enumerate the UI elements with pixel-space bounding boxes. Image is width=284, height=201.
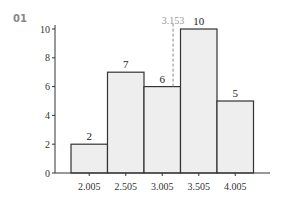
- x-tick-label: 4.005: [224, 181, 247, 192]
- bar-3.005: [144, 87, 181, 173]
- bar-value-label: 5: [233, 87, 239, 99]
- x-tick-label: 2.005: [78, 181, 101, 192]
- histogram-chart: 22.00572.50563.005103.50554.0053.1530246…: [0, 0, 284, 201]
- x-tick-label: 3.505: [188, 181, 211, 192]
- bar-3.505: [181, 29, 218, 173]
- y-tick-label: 10: [40, 24, 50, 35]
- y-tick-label: 2: [45, 139, 50, 150]
- x-tick-label: 3.005: [151, 181, 174, 192]
- bar-2.505: [108, 72, 145, 173]
- bar-value-label: 10: [193, 15, 205, 27]
- y-tick-label: 0: [45, 168, 50, 179]
- y-tick-label: 6: [45, 81, 50, 92]
- bar-4.005: [217, 101, 254, 173]
- x-tick-label: 2.505: [115, 181, 138, 192]
- bar-value-label: 6: [160, 73, 166, 85]
- y-tick-label: 8: [45, 52, 50, 63]
- bar-value-label: 7: [123, 58, 129, 70]
- mean-annotation-label: 3.153: [162, 15, 185, 26]
- y-tick-label: 4: [45, 110, 50, 121]
- bar-value-label: 2: [87, 130, 93, 142]
- bar-2.005: [71, 144, 108, 173]
